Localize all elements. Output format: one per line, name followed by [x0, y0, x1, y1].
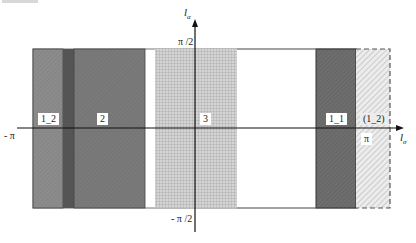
tick-left: - π [4, 130, 15, 141]
label-region-1-2-periodic: (1_2) [360, 113, 388, 125]
label-region-2: 2 [97, 113, 108, 125]
label-region-1-1: 1_1 [326, 113, 347, 125]
tick-right: π [361, 133, 372, 145]
label-region-3: 3 [200, 113, 211, 125]
label-region-1-2: 1_2 [38, 113, 59, 125]
y-axis-name: lα [184, 6, 191, 21]
tick-top: π /2 [178, 36, 193, 47]
y-axis-arrow-icon [192, 19, 198, 27]
x-axis-name: lσ [400, 131, 407, 146]
tick-bottom: - π /2 [171, 213, 192, 224]
diagram: lα lσ π /2 - π /2 - π π 1_2 2 3 1_1 (1_2… [0, 0, 416, 243]
